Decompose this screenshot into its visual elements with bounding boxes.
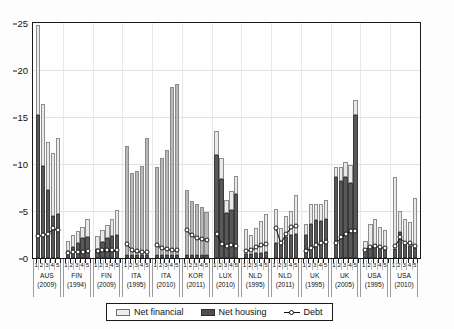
bar-segment-net-housing xyxy=(224,213,228,258)
bar-segment-net-financial xyxy=(229,191,233,210)
bar-segment-net-financial xyxy=(115,210,119,235)
x-country-label: LUX xyxy=(213,272,239,279)
bar-segment-net-housing xyxy=(289,235,293,259)
bar-segment-net-housing xyxy=(408,246,412,258)
bar-segment-net-housing xyxy=(304,235,308,259)
x-axis: 12345AUS(2009)12345FIN(1994)12345FIN(200… xyxy=(32,259,421,299)
x-year-label: (2009) xyxy=(94,281,120,288)
bar-segment-net-financial xyxy=(254,228,258,253)
bar-segment-net-financial xyxy=(95,236,99,248)
x-year-label: (1995) xyxy=(361,281,387,288)
x-tick-mark xyxy=(55,259,56,263)
bar-segment-net-financial xyxy=(200,207,204,255)
bar-segment-net-housing xyxy=(334,177,338,258)
bar-usa-q5 xyxy=(413,198,417,258)
x-tick-mark xyxy=(398,259,399,263)
bar-segment-net-housing xyxy=(76,243,80,258)
bar-uk-q2 xyxy=(339,167,343,258)
bar-fin-q5 xyxy=(115,210,119,258)
x-tick-mark xyxy=(284,259,285,263)
bar-ita-q3 xyxy=(135,171,139,258)
x-group-nld-1995: 12345NLD(1995) xyxy=(241,259,269,297)
bar-usa-q1 xyxy=(363,241,367,258)
x-tick-mark xyxy=(383,259,384,263)
x-tick-mark xyxy=(234,259,235,263)
bar-fin-q3 xyxy=(76,231,80,258)
bar-nld-q4 xyxy=(259,221,263,258)
x-tick-mark xyxy=(184,259,185,263)
x-tick-mark xyxy=(45,259,46,263)
x-tick-mark xyxy=(298,259,299,263)
x-tick-mark xyxy=(254,259,255,263)
bar-segment-net-housing xyxy=(160,255,164,258)
bar-nld-q3 xyxy=(254,228,258,258)
bar-segment-net-financial xyxy=(85,219,89,238)
x-tick-mark xyxy=(323,259,324,263)
x-tick-mark xyxy=(70,259,71,263)
bar-segment-net-financial xyxy=(170,87,174,255)
bar-segment-net-housing xyxy=(41,166,45,258)
x-group-usa-2010: 12345USA(2010) xyxy=(390,259,418,297)
bar-segment-net-financial xyxy=(244,229,248,254)
bar-segment-net-financial xyxy=(110,219,114,237)
bar-aus-q5 xyxy=(56,138,60,258)
bar-segment-net-housing xyxy=(165,255,169,258)
bar-segment-net-housing xyxy=(229,210,233,258)
bar-kor-q2 xyxy=(190,201,194,258)
bar-lux-q4 xyxy=(229,191,233,258)
y-tick-label-10: 10 xyxy=(17,159,28,170)
bar-segment-net-financial xyxy=(80,227,84,238)
legend-swatch-debt xyxy=(284,309,300,316)
x-group-ita-1995: 12345ITA(1995) xyxy=(122,259,150,297)
bar-segment-net-financial xyxy=(324,200,328,219)
x-tick-mark xyxy=(368,259,369,263)
bar-segment-net-financial xyxy=(353,100,357,115)
x-tick-mark xyxy=(135,259,136,263)
bar-fin-q5 xyxy=(85,219,89,258)
x-group-ita-2010: 12345ITA(2010) xyxy=(152,259,180,297)
x-tick-mark xyxy=(209,259,210,263)
bar-segment-net-housing xyxy=(155,255,159,258)
bar-segment-net-financial xyxy=(56,138,60,214)
x-country-label: NLD xyxy=(272,272,298,279)
bar-aus-q4 xyxy=(51,153,55,258)
bar-segment-net-housing xyxy=(80,238,84,258)
bar-segment-net-financial xyxy=(319,204,323,221)
bar-segment-net-housing xyxy=(175,255,179,258)
y-tick-label-0: 0 xyxy=(23,253,28,264)
x-tick-mark xyxy=(303,259,304,263)
bar-segment-net-housing xyxy=(254,253,258,258)
legend-label-debt: Debt xyxy=(304,307,323,317)
bar-segment-net-housing xyxy=(51,216,55,258)
bar-segment-net-financial xyxy=(204,212,208,255)
bar-uk-q2 xyxy=(309,204,313,258)
x-tick-mark xyxy=(408,259,409,263)
bar-usa-q1 xyxy=(393,177,397,258)
x-tick-mark xyxy=(130,259,131,263)
x-tick-mark xyxy=(239,259,240,263)
bar-nld-q1 xyxy=(244,229,248,258)
bar-segment-net-housing xyxy=(204,255,208,258)
x-tick-mark xyxy=(279,259,280,263)
x-tick-mark xyxy=(100,259,101,263)
bar-nld-q2 xyxy=(249,235,253,258)
x-country-label: ITA xyxy=(123,272,149,279)
x-tick-mark xyxy=(229,259,230,263)
x-tick-mark xyxy=(115,259,116,263)
bar-segment-net-housing xyxy=(219,179,223,258)
bar-segment-net-housing xyxy=(383,248,387,258)
x-tick-mark xyxy=(164,259,165,263)
bar-segment-net-housing xyxy=(398,232,402,258)
x-tick-mark xyxy=(90,259,91,263)
bar-nld-q5 xyxy=(264,214,268,258)
bar-segment-net-financial xyxy=(304,224,308,234)
bar-segment-net-financial xyxy=(219,158,223,179)
bar-segment-net-financial xyxy=(36,25,40,115)
bar-segment-net-financial xyxy=(214,131,218,155)
bar-kor-q4 xyxy=(200,207,204,258)
bar-segment-net-financial xyxy=(125,146,129,255)
bar-segment-net-financial xyxy=(274,209,278,243)
x-tick-mark xyxy=(60,259,61,263)
x-year-label: (2010) xyxy=(153,281,179,288)
bar-uk-q1 xyxy=(304,224,308,258)
